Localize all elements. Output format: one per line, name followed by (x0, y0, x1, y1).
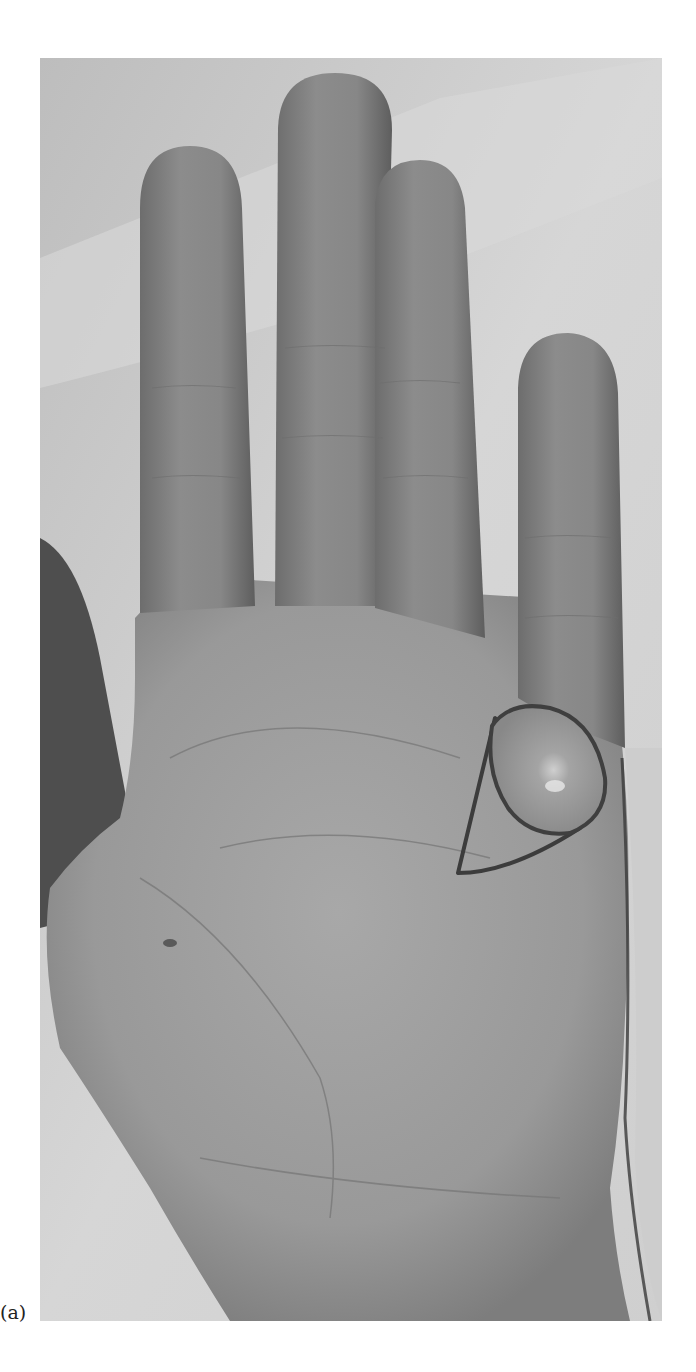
hand-illustration (40, 58, 662, 1321)
middle-finger (275, 73, 392, 606)
clinical-photograph (40, 58, 662, 1321)
index-finger (140, 146, 255, 613)
figure: (a) (0, 0, 696, 1372)
skin-mark (163, 939, 177, 947)
panel-label: (a) (0, 1303, 26, 1322)
little-finger (518, 333, 625, 748)
